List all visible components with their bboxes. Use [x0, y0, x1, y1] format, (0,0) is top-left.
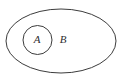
euler-diagram: A B — [0, 0, 123, 80]
diagram-canvas: A B — [0, 0, 123, 80]
outer-set-label: B — [60, 33, 67, 45]
inner-set-label: A — [33, 33, 41, 45]
